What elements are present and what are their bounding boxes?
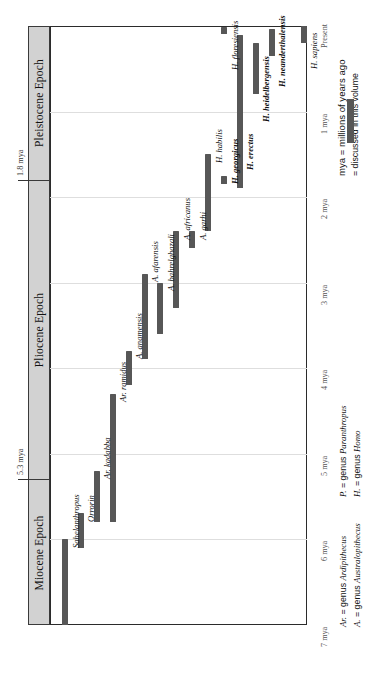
axis-tick-label: 5 mya [320, 455, 329, 475]
axis-tick-label: 6 mya [320, 541, 329, 561]
genus-key-text: = genus [352, 583, 362, 619]
genus-key-abbr: H. [352, 488, 362, 497]
species-label: A. africanus [182, 198, 192, 240]
axis-tick-label: 1 mya [320, 113, 329, 133]
epoch-cell: Miocene Epoch [29, 480, 49, 625]
epoch-cell: Pleistocene Epoch [29, 27, 49, 181]
genus-key-item: P. = genus Paranthropus [338, 406, 348, 497]
species-bar [157, 283, 163, 334]
species-label: H. floresiensis [230, 21, 240, 70]
epoch-label: Pleistocene Epoch [33, 59, 45, 147]
genus-key-text: = genus [338, 581, 348, 617]
epoch-boundary-label: 5.3 mya [16, 449, 25, 475]
species-label: H. erectus [245, 133, 255, 169]
legend-swatch [347, 99, 354, 143]
species-bar [253, 43, 259, 94]
species-label: A. anamensis [134, 313, 144, 359]
hominin-timeline-chart: Pleistocene EpochPliocene EpochMiocene E… [0, 0, 375, 675]
species-label: Sahelanthropus [71, 495, 81, 549]
species-bar [301, 26, 307, 43]
genus-key-abbr: Ar. [338, 617, 348, 627]
epoch-band: Pleistocene EpochPliocene EpochMiocene E… [28, 26, 50, 625]
genus-key-item: H. = genus Homo [352, 430, 362, 497]
epoch-label: Miocene Epoch [33, 515, 45, 590]
epoch-label: Pliocene Epoch [33, 293, 45, 368]
genus-key-genus: Ardipithecus [338, 536, 348, 581]
genus-key-item: Ar. = genus Ardipithecus [338, 536, 348, 627]
species-bar [269, 29, 275, 56]
species-label: H. georgicus [230, 139, 240, 184]
genus-key-genus: Paranthropus [338, 406, 348, 455]
species-label: H. heidelbergensis [261, 56, 271, 122]
species-label: A. garhi [198, 212, 208, 240]
genus-key-item: A. = genus Australopithecus [352, 523, 362, 627]
epoch-cell: Pliocene Epoch [29, 181, 49, 480]
genus-key-genus: Homo [352, 430, 362, 452]
species-label: H. neanderthalensis [277, 16, 287, 88]
axis-tick-label: 2 mya [320, 199, 329, 219]
species-label: H. habilis [214, 129, 224, 163]
gridline [50, 197, 307, 198]
axis-tick-label: Present [320, 24, 329, 48]
species-label: Orrorin [86, 495, 96, 522]
epoch-boundary-tick [18, 180, 29, 181]
species-bar [62, 539, 68, 625]
species-label: H. sapiens [309, 32, 319, 68]
axis-tick-label: 3 mya [320, 284, 329, 304]
axis-tick-label: 7 mya [320, 626, 329, 646]
genus-key-genus: Australopithecus [352, 523, 362, 583]
species-bar [221, 27, 227, 34]
epoch-boundary-label: 1.8 mya [16, 150, 25, 176]
genus-key-text: = genus [352, 452, 362, 488]
epoch-boundary-tick [18, 479, 29, 480]
species-label: A. bahrelghazali [166, 234, 176, 291]
gridline [50, 454, 307, 455]
species-label: Ar. ramidus [118, 362, 128, 402]
gridline [50, 368, 307, 369]
legend-mya-note: mya = millions of years ago [336, 59, 347, 176]
axis-tick-label: 4 mya [320, 370, 329, 390]
genus-key-text: = genus [338, 454, 348, 490]
genus-key-abbr: A. [352, 619, 362, 627]
species-bar [221, 176, 227, 185]
gridline [50, 539, 307, 540]
species-label: A. afarensis [150, 242, 160, 283]
species-label: Ar. kadabba [102, 437, 112, 479]
genus-key-abbr: P. [338, 491, 348, 497]
